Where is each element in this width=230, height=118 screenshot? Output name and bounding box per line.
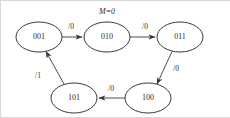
state-diagram-canvas: 001 010 011 100 101 /0 /0 /0 /0 /1 M=0 (0, 0, 230, 118)
fsm-svg: 001 010 011 100 101 /0 /0 /0 /0 /1 M=0 (0, 0, 230, 118)
transition-label-101-to-001: /1 (35, 71, 41, 80)
transition-label-100-to-101: /0 (108, 84, 114, 93)
transition-label-001-to-010: /0 (68, 22, 74, 31)
transition-011-to-100 (157, 52, 172, 85)
transition-label-010-to-011: /0 (142, 22, 148, 31)
state-label-101: 101 (68, 93, 80, 102)
state-label-011: 011 (174, 32, 186, 41)
machine-annotation-label: M=0 (98, 7, 115, 16)
transition-label-011-to-100: /0 (173, 64, 179, 73)
transition-101-to-001 (46, 52, 64, 85)
state-label-010: 010 (101, 32, 113, 41)
state-label-100: 100 (142, 93, 154, 102)
state-label-001: 001 (33, 32, 45, 41)
